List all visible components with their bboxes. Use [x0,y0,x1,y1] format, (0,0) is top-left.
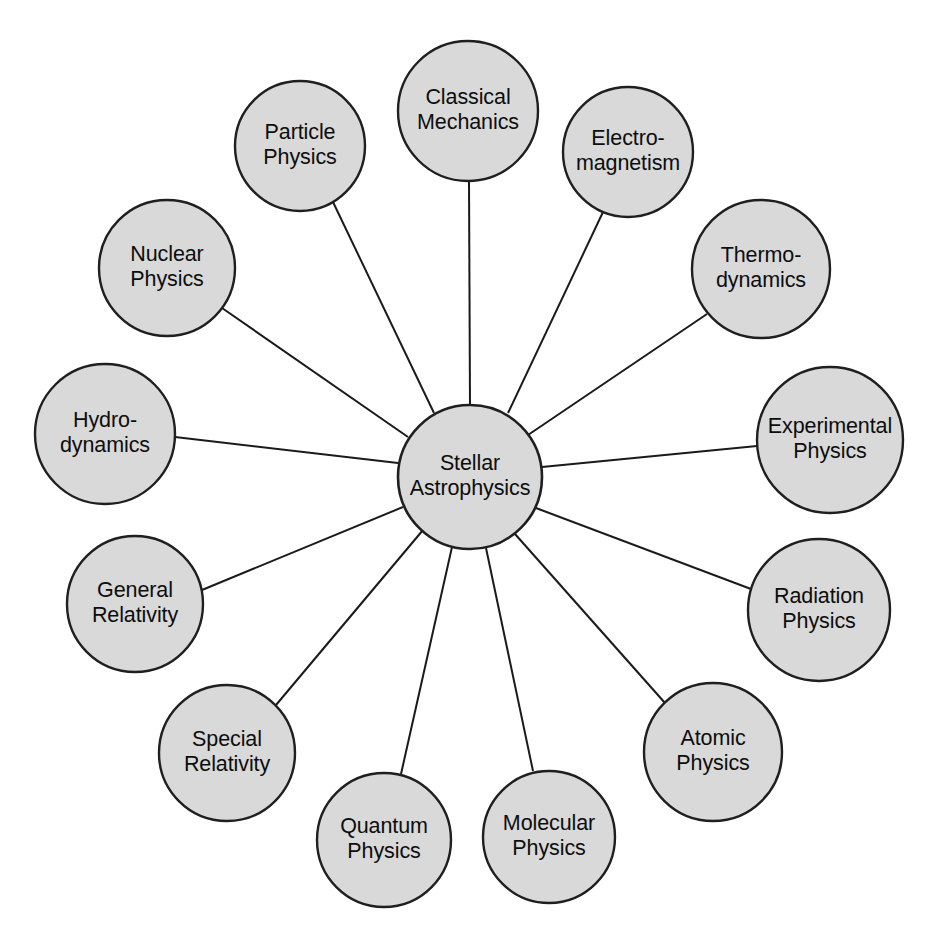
spoke-line-experimental-physics [542,446,757,467]
spoke-line-hydrodynamics [175,437,398,463]
node-quantum-physics[interactable]: QuantumPhysics [317,773,451,907]
spoke-line-quantum-physics [401,547,452,774]
node-general-relativity[interactable]: GeneralRelativity [67,536,203,672]
stellar-astrophysics-label-line-2: Astrophysics [410,476,531,500]
spoke-line-electromagnetism [508,212,603,413]
classical-mechanics-label-line-1: Classical [425,85,510,109]
radiation-physics-label-line-2: Physics [782,609,855,633]
electromagnetism-label-line-2: magnetism [576,151,680,175]
molecular-physics-label-line-1: Molecular [503,811,595,835]
node-hydrodynamics[interactable]: Hydro-dynamics [35,364,175,504]
node-experimental-physics[interactable]: ExperimentalPhysics [757,367,903,513]
special-relativity-label-line-1: Special [192,727,262,751]
spoke-line-molecular-physics [486,548,533,771]
particle-physics-label-line-1: Particle [265,120,336,144]
spoke-line-particle-physics [333,202,434,413]
thermodynamics-label-line-2: dynamics [716,268,806,292]
spoke-line-radiation-physics [536,508,751,589]
hydrodynamics-label-line-1: Hydro- [73,408,137,432]
classical-mechanics-label-line-2: Mechanics [417,110,519,134]
nuclear-physics-label-line-2: Physics [130,267,203,291]
node-atomic-physics[interactable]: AtomicPhysics [644,683,782,821]
spoke-line-classical-mechanics [469,181,470,405]
node-nuclear-physics[interactable]: NuclearPhysics [99,200,235,336]
spoke-line-nuclear-physics [222,308,408,437]
mind-map-diagram: ClassicalMechanicsElectro-magnetismTherm… [0,0,929,942]
spoke-line-general-relativity [202,507,403,590]
node-molecular-physics[interactable]: MolecularPhysics [483,771,615,903]
node-electromagnetism[interactable]: Electro-magnetism [563,87,693,217]
experimental-physics-label-line-2: Physics [793,439,866,463]
molecular-physics-label-line-2: Physics [512,836,585,860]
special-relativity-label-line-2: Relativity [184,752,271,776]
quantum-physics-label-line-1: Quantum [340,814,428,838]
spoke-line-atomic-physics [515,534,665,703]
experimental-physics-label-line-1: Experimental [768,414,892,438]
spoke-line-special-relativity [276,530,423,705]
node-classical-mechanics[interactable]: ClassicalMechanics [398,41,538,181]
hydrodynamics-label-line-2: dynamics [60,433,150,457]
node-radiation-physics[interactable]: RadiationPhysics [748,539,890,681]
atomic-physics-label-line-2: Physics [676,751,749,775]
radiation-physics-label-line-1: Radiation [774,584,864,608]
general-relativity-label-line-1: General [97,578,173,602]
atomic-physics-label-line-1: Atomic [680,726,745,750]
particle-physics-label-line-2: Physics [263,145,336,169]
thermodynamics-label-line-1: Thermo- [721,243,802,267]
stellar-astrophysics-label-line-1: Stellar [440,451,500,475]
general-relativity-label-line-2: Relativity [92,603,179,627]
spoke-line-thermodynamics [528,314,707,435]
mind-map-canvas: ClassicalMechanicsElectro-magnetismTherm… [0,0,929,942]
node-particle-physics[interactable]: ParticlePhysics [235,81,365,211]
node-special-relativity[interactable]: SpecialRelativity [159,685,295,821]
electromagnetism-label-line-1: Electro- [591,126,664,150]
node-stellar-astrophysics[interactable]: StellarAstrophysics [398,405,542,549]
quantum-physics-label-line-2: Physics [347,839,420,863]
nuclear-physics-label-line-1: Nuclear [130,242,203,266]
node-thermodynamics[interactable]: Thermo-dynamics [692,200,830,338]
center-node-group: StellarAstrophysics [398,405,542,549]
